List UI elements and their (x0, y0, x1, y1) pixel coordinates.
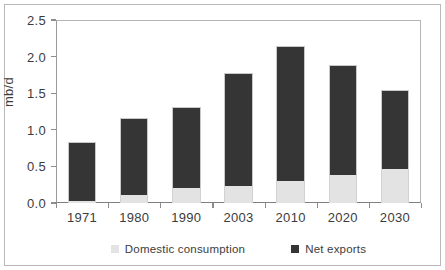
legend-swatch-exports-icon (291, 245, 299, 253)
bar-stack (224, 73, 252, 203)
bar-slot-1971 (68, 20, 96, 203)
legend-label: Domestic consumption (125, 243, 245, 255)
bar-slot-2003 (224, 20, 252, 203)
x-axis-tick-mark (265, 203, 266, 208)
x-axis-tick-label-2010: 2010 (276, 210, 306, 225)
bar-stack (172, 107, 200, 203)
bar-segment-domestic (276, 181, 304, 203)
bar-segment-domestic (381, 169, 409, 203)
y-axis-tick-label: 2.0 (27, 49, 46, 64)
bar-segment-domestic (329, 175, 357, 203)
bar-segment-exports (120, 118, 148, 195)
bar-stack (381, 90, 409, 203)
y-axis-label: mb/d (1, 77, 16, 107)
x-axis-tick-mark (421, 203, 422, 208)
legend-item-exports: Net exports (291, 243, 366, 255)
bar-segment-exports (224, 73, 252, 186)
bar-segment-exports (381, 90, 409, 168)
x-axis-tick-mark (369, 203, 370, 208)
x-axis-tick-mark (160, 203, 161, 208)
bar-slot-1990 (172, 20, 200, 203)
bar-stack (120, 118, 148, 203)
x-axis-tick-label-1980: 1980 (119, 210, 149, 225)
bar-group (56, 20, 421, 203)
bar-stack (276, 46, 304, 203)
x-axis-tick-mark (212, 203, 213, 208)
y-axis-tick-label: 0.0 (27, 196, 46, 211)
x-axis-tick-mark (56, 203, 57, 208)
bar-segment-exports (276, 46, 304, 181)
legend-label: Net exports (305, 243, 366, 255)
x-axis-tick-label-2003: 2003 (223, 210, 253, 225)
legend-swatch-domestic-icon (111, 245, 119, 253)
chart-legend: Domestic consumptionNet exports (56, 241, 421, 257)
x-axis-tick-mark (317, 203, 318, 208)
bar-segment-domestic (120, 195, 148, 203)
bar-stack (329, 65, 357, 203)
y-axis-tick-label: 2.5 (27, 13, 46, 28)
x-axis-tick-group: 1971198019902003201020202030 (56, 203, 421, 233)
x-axis-tick-mark (108, 203, 109, 208)
y-axis-tick-label: 1.0 (27, 122, 46, 137)
bar-segment-exports (329, 65, 357, 176)
x-axis-tick-label-1971: 1971 (67, 210, 97, 225)
bar-stack (68, 142, 96, 203)
y-axis-tick-label: 0.5 (27, 159, 46, 174)
bar-slot-1980 (120, 20, 148, 203)
bar-segment-exports (68, 142, 96, 201)
y-axis-tick-label: 1.5 (27, 86, 46, 101)
x-axis-tick-label-2030: 2030 (380, 210, 410, 225)
bar-segment-domestic (224, 186, 252, 203)
x-axis-tick-label-2020: 2020 (328, 210, 358, 225)
bar-segment-exports (172, 107, 200, 188)
x-axis-tick-label-1990: 1990 (171, 210, 201, 225)
bar-slot-2030 (381, 20, 409, 203)
legend-item-domestic: Domestic consumption (111, 243, 245, 255)
bar-slot-2010 (276, 20, 304, 203)
chart-figure: mb/d 0.00.51.01.52.02.5 1971198019902003… (0, 0, 445, 270)
bar-segment-domestic (172, 188, 200, 203)
bar-slot-2020 (329, 20, 357, 203)
